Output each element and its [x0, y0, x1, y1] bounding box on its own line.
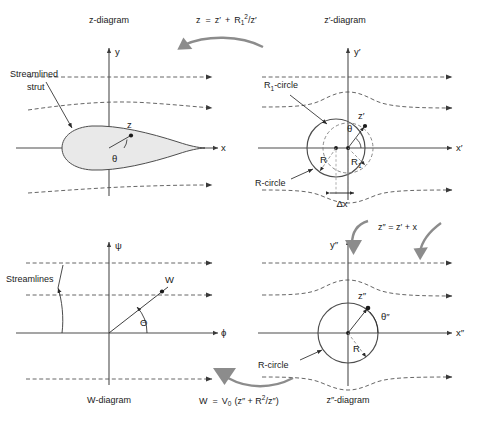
transform-arrow-top-path [184, 38, 263, 47]
zdprime-point-label: z″ [358, 290, 367, 301]
panel-W-diagram: ψ ϕ Streamlines W Θ W-diagram [6, 240, 226, 405]
equation-right: z″ = z′ + x [378, 222, 417, 232]
zprime-R1-circle-leader [290, 95, 327, 124]
zdprime-R-radius-label: R [353, 343, 360, 354]
zdprime-angle-arc [370, 312, 378, 333]
zprime-R1-radius-label: R1 [351, 156, 362, 169]
conformal-mapping-diagram: z-diagram y x Streamlined strut z θ z′-d… [0, 0, 487, 426]
zprime-diagram-caption: z′-diagram [324, 15, 366, 25]
z-diagram-caption: z-diagram [89, 15, 129, 25]
streamlined-strut-label-line2: strut [27, 82, 45, 92]
transform-arrow-bottom-path [228, 378, 293, 386]
z-point-marker [129, 133, 133, 137]
zdprime-point-marker [366, 306, 371, 311]
zprime-streamline-lower [262, 190, 452, 203]
zprime-axis-y-label: y′ [354, 46, 361, 57]
transform-arrow-bottom-head [213, 368, 236, 385]
equation-bottom: W=V0(z″ + R2/z″) [199, 394, 279, 407]
streamlined-strut-body [62, 126, 205, 170]
W-diagram-caption: W-diagram [87, 395, 131, 405]
W-vector [109, 287, 168, 333]
transform-arrow-right-path [420, 223, 441, 252]
zdprime-diagram-caption: z″-diagram [326, 395, 369, 405]
W-streamlines-leader2 [58, 265, 63, 288]
z-streamline-lower [28, 185, 212, 193]
z-streamline-upper [28, 102, 212, 110]
zprime-point-marker [363, 124, 367, 128]
zprime-axis-x-label: x′ [456, 142, 463, 153]
zprime-point-label: z′ [358, 110, 365, 121]
W-axis-y-label: ψ [115, 240, 122, 251]
streamlined-strut-label-line1: Streamlined [10, 69, 58, 79]
z-angle-label: θ [112, 153, 117, 164]
W-point-marker [160, 289, 164, 293]
transform-arrow-top: z=z′+R12/z′ [184, 13, 263, 47]
zprime-R-radius-label: R [320, 154, 327, 165]
zprime-dx-label: Δx [336, 198, 347, 209]
z-point-label: z [127, 119, 132, 130]
transform-arrow-bottom: W=V0(z″ + R2/z″) [199, 368, 293, 407]
zprime-angle-label: θ [347, 123, 352, 134]
z-axis-y-label: y [115, 46, 120, 57]
panel-zprime-diagram: z′-diagram y′ x′ R1-circle R-circle R R1… [255, 15, 463, 209]
zdprime-R-circle-label: R-circle [258, 360, 289, 370]
zdprime-R-circle-leader [300, 350, 322, 360]
equation-top: z=z′+R12/z′ [196, 13, 257, 26]
zprime-streamline-upper [262, 92, 452, 108]
zprime-angle-arc [356, 139, 361, 149]
zprime-R-circle-label: R-circle [255, 178, 286, 188]
W-point-label: W [165, 274, 174, 285]
W-axis-x-label: ϕ [221, 327, 226, 338]
zdprime-axis-y-label: y″ [330, 239, 339, 250]
zprime-R-circle-leader [291, 169, 313, 179]
figure-root: z-diagram y x Streamlined strut z θ z′-d… [0, 0, 487, 426]
W-streamlines-label: Streamlines [6, 274, 54, 284]
W-angle-label: Θ [140, 317, 147, 328]
z-axis-x-label: x [221, 142, 226, 153]
zdprime-angle-label: θ″ [381, 311, 390, 322]
transform-arrow-right: z″ = z′ + x [345, 221, 441, 255]
zdprime-axis-x-label: x″ [456, 327, 465, 338]
zprime-R1-circle-label: R1-circle [264, 80, 298, 92]
zdprime-point-vector [348, 309, 367, 333]
zdprime-streamline-upper [262, 280, 452, 296]
